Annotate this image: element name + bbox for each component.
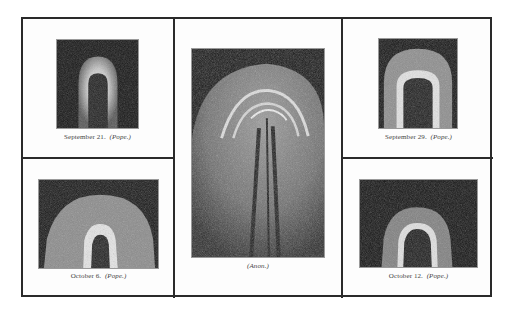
- comet-plate-september-29: [378, 38, 458, 129]
- caption-source: (Pope.): [105, 272, 127, 280]
- row-divider-left: [21, 157, 174, 159]
- caption-date: October 6.: [71, 272, 102, 280]
- row-divider-right: [342, 157, 493, 159]
- caption-center: (Anon.): [200, 262, 316, 270]
- caption-source: (Pope.): [109, 133, 131, 141]
- comet-plate-october-6: [38, 179, 159, 269]
- caption-october-12: October 12. (Pope.): [360, 272, 477, 280]
- caption-source: (Pope.): [430, 133, 452, 141]
- caption-date: October 12.: [389, 272, 423, 280]
- comet-plate-center: [191, 48, 325, 258]
- caption-date: September 29.: [385, 133, 427, 141]
- caption-september-29: September 29. (Pope.): [360, 133, 477, 141]
- caption-source: (Pope.): [427, 272, 449, 280]
- caption-date: September 21.: [64, 133, 106, 141]
- caption-october-6: October 6. (Pope.): [40, 272, 157, 280]
- caption-september-21: September 21. (Pope.): [40, 133, 155, 141]
- comet-plate-september-21: [56, 39, 139, 129]
- caption-source: (Anon.): [247, 262, 269, 270]
- comet-plate-october-12: [359, 179, 478, 268]
